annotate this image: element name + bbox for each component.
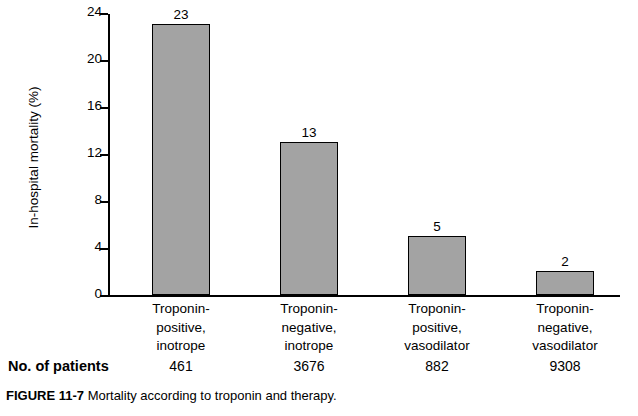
y-tick-label-8: 8 <box>62 193 102 206</box>
figure-caption: FIGURE 11-7 Mortality according to tropo… <box>6 388 638 403</box>
x-category-label-1: Troponin- negative, inotrope <box>244 300 374 356</box>
x-category-label-2-line-1: positive, <box>372 319 502 338</box>
patients-count-value-2: 882 <box>372 358 502 374</box>
y-axis-line <box>108 14 110 297</box>
plot-area: 0 4 8 12 16 20 24 23 13 <box>108 14 620 297</box>
chart-figure: In-hospital mortality (%) 0 4 8 12 16 20 <box>0 0 638 416</box>
patients-count-value-1: 3676 <box>244 358 374 374</box>
x-category-label-2-line-2: vasodilator <box>372 337 502 356</box>
y-tick-label-12: 12 <box>62 146 102 159</box>
x-category-label-3-line-0: Troponin- <box>500 300 630 319</box>
x-category-label-0-line-2: inotrope <box>116 337 246 356</box>
bar-troponin-negative-inotrope <box>280 142 338 295</box>
bar-value-troponin-negative-inotrope: 13 <box>269 125 349 140</box>
x-category-label-3-line-2: vasodilator <box>500 337 630 356</box>
y-tick-label-24: 24 <box>62 5 102 18</box>
x-category-label-1-line-1: negative, <box>244 319 374 338</box>
figure-caption-text: Mortality according to troponin and ther… <box>84 388 337 403</box>
bar-value-troponin-positive-vasodilator: 5 <box>397 219 477 234</box>
y-tick-label-20: 20 <box>62 52 102 65</box>
x-category-label-3: Troponin- negative, vasodilator <box>500 300 630 356</box>
y-axis-title: In-hospital mortality (%) <box>26 63 41 253</box>
patients-count-value-3: 9308 <box>500 358 630 374</box>
x-category-label-3-line-1: negative, <box>500 319 630 338</box>
x-category-label-2-line-0: Troponin- <box>372 300 502 319</box>
x-category-label-0: Troponin- positive, inotrope <box>116 300 246 356</box>
y-tick-label-16: 16 <box>62 99 102 112</box>
x-category-label-0-line-0: Troponin- <box>116 300 246 319</box>
x-category-label-1-line-2: inotrope <box>244 337 374 356</box>
x-category-label-2: Troponin- positive, vasodilator <box>372 300 502 356</box>
bar-troponin-positive-vasodilator <box>408 236 466 295</box>
x-axis-line <box>108 295 620 297</box>
patients-count-row: No. of patients 461 3676 882 9308 <box>0 358 638 384</box>
bar-troponin-negative-vasodilator <box>536 271 594 295</box>
y-tick-label-0: 0 <box>62 287 102 300</box>
x-category-label-0-line-1: positive, <box>116 319 246 338</box>
x-category-label-1-line-0: Troponin- <box>244 300 374 319</box>
bar-troponin-positive-inotrope <box>152 24 210 295</box>
bar-value-troponin-negative-vasodilator: 2 <box>525 254 605 269</box>
y-tick-label-4: 4 <box>62 240 102 253</box>
bar-value-troponin-positive-inotrope: 23 <box>141 7 221 22</box>
x-axis-category-labels: Troponin- positive, inotrope Troponin- n… <box>108 300 620 362</box>
patients-count-value-0: 461 <box>116 358 246 374</box>
figure-caption-prefix: FIGURE 11-7 <box>6 388 84 403</box>
patients-count-label: No. of patients <box>8 358 109 374</box>
